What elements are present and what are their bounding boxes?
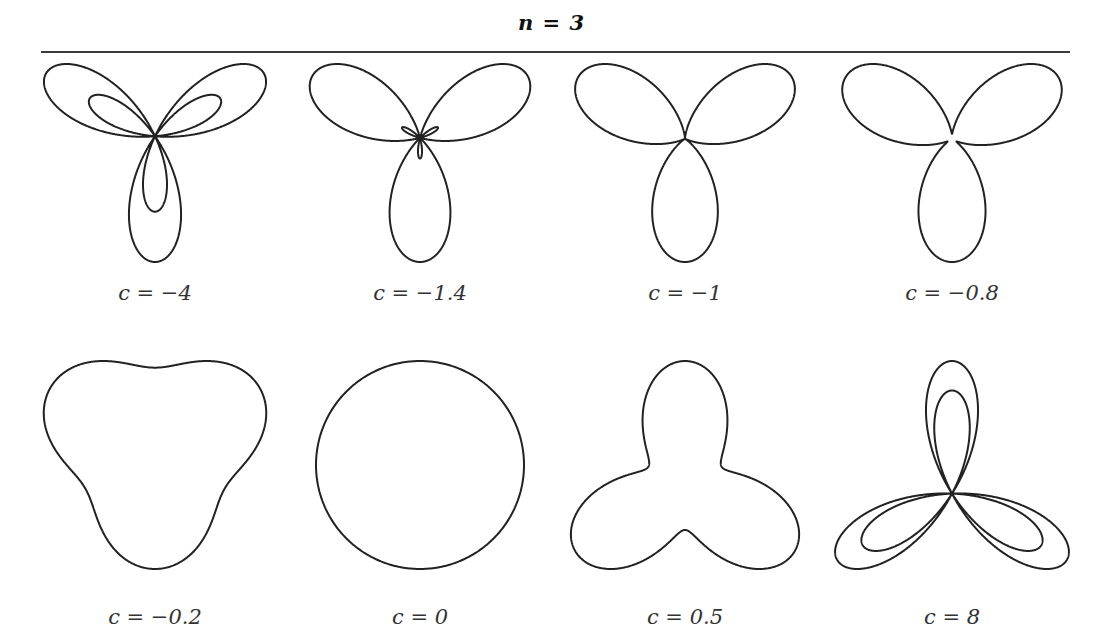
polar-curve bbox=[25, 58, 285, 268]
curve-path bbox=[835, 361, 1069, 569]
title-rule bbox=[41, 51, 1070, 53]
panel-caption: c = −1 bbox=[555, 281, 815, 305]
panel-caption: c = −0.2 bbox=[25, 605, 285, 629]
polar-curve bbox=[25, 355, 285, 575]
panel-c-0-5: c = 0.5 bbox=[555, 355, 815, 641]
polar-curve bbox=[822, 58, 1082, 268]
panel-c-8: c = 8 bbox=[822, 355, 1082, 641]
curve-path bbox=[842, 64, 1062, 262]
polar-curve bbox=[290, 58, 550, 268]
curve-path bbox=[575, 64, 795, 262]
polar-curve bbox=[290, 355, 550, 575]
figure-title: n = 3 bbox=[0, 10, 1103, 35]
panel-caption: c = 0 bbox=[290, 605, 550, 629]
polar-curve bbox=[555, 58, 815, 268]
panel-c-neg1: c = −1 bbox=[555, 58, 815, 318]
panel-c-neg4: c = −4 bbox=[25, 58, 285, 318]
panel-caption: c = 0.5 bbox=[555, 605, 815, 629]
curve-path bbox=[571, 361, 799, 569]
panel-c-neg1-4: c = −1.4 bbox=[290, 58, 550, 318]
polar-curve bbox=[822, 355, 1082, 575]
curve-path bbox=[44, 64, 266, 262]
panel-c-neg0-2: c = −0.2 bbox=[25, 355, 285, 641]
polar-curve bbox=[555, 355, 815, 575]
panel-caption: c = −1.4 bbox=[290, 281, 550, 305]
curve-path bbox=[310, 64, 531, 262]
panel-c-0: c = 0 bbox=[290, 355, 550, 641]
panel-caption: c = −0.8 bbox=[822, 281, 1082, 305]
curve-path bbox=[44, 361, 266, 569]
panel-caption: c = 8 bbox=[822, 605, 1082, 629]
panel-c-neg0-8: c = −0.8 bbox=[822, 58, 1082, 318]
curve-path bbox=[316, 361, 524, 569]
panel-caption: c = −4 bbox=[25, 281, 285, 305]
